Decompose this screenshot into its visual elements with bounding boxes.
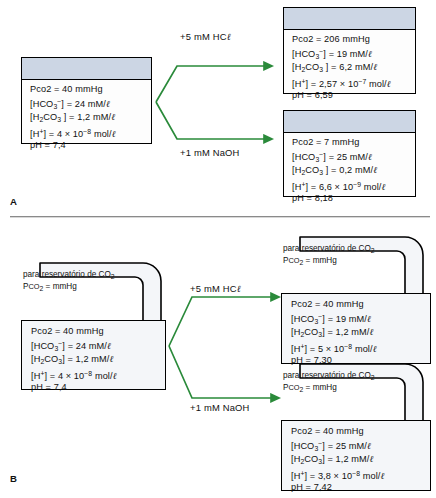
value-h2co3: [H2CO3] = 1,2 mM/ℓ — [291, 454, 424, 468]
panel-b-label: B — [10, 473, 17, 484]
panel-a-initial-box: Pco2 = 40 mmHg [HCO3−] = 24 mM/ℓ [H2CO3 … — [21, 57, 152, 144]
value-h2co3: [H2CO3 ] = 1,2 mM/ℓ — [30, 112, 145, 126]
reservoir-line-2: PCO2 = mmHg — [23, 282, 115, 294]
value-ph: pH = 6,59 — [292, 90, 409, 102]
value-h: [H+] = 4 × 10−8 mol/ℓ — [31, 368, 159, 383]
box-values: Pco2 = 206 mmHg [HCO3−] = 19 mM/ℓ [H2CO3… — [284, 30, 415, 107]
panel-a-arrow-fork — [155, 55, 285, 150]
value-hco3: [HCO3−] = 19 mM/ℓ — [292, 46, 409, 63]
panel-b-initial-box: para reservatório de CO2 PCO2 = mmHg Pco… — [21, 260, 166, 390]
value-h: [H+] = 4 × 10−8 mol/ℓ — [30, 126, 145, 141]
box-values: Pco2 = 40 mmHg [HCO3−] = 24 mM/ℓ [H2CO3 … — [22, 80, 151, 157]
value-hco3: [HCO3−] = 24 mM/ℓ — [31, 338, 159, 355]
value-pco2: Pco2 = 40 mmHg — [291, 299, 424, 311]
vessel-box: Pco2 = 40 mmHg [HCO3−] = 24 mM/ℓ [H2CO3]… — [21, 320, 166, 390]
value-ph: pH = 7,30 — [291, 355, 424, 367]
panel-a-base-arrow-label: +1 mM NaOH — [180, 147, 240, 158]
value-h: [H+] = 3,8 × 10−8 mol/ℓ — [291, 468, 424, 483]
value-h2co3: [H2CO3 ] = 0,2 mM/ℓ — [292, 165, 409, 179]
reservoir-line-1: para reservatório de CO2 — [23, 270, 115, 282]
value-pco2: Pco2 = 40 mmHg — [31, 326, 159, 338]
vessel-box: Pco2 = 40 mmHg [HCO3−] = 25 mM/ℓ [H2CO3]… — [281, 420, 431, 491]
box-values: Pco2 = 40 mmHg [HCO3−] = 24 mM/ℓ [H2CO3]… — [22, 321, 165, 399]
value-hco3: [HCO3−] = 19 mM/ℓ — [291, 311, 424, 328]
reservoir-line-1: para reservatório de CO2 — [283, 371, 375, 383]
value-pco2: Pco2 = 40 mmHg — [291, 426, 424, 438]
value-ph: pH = 8,18 — [292, 193, 409, 205]
value-h2co3: [H2CO3 ] = 6,2 mM/ℓ — [292, 62, 409, 76]
value-h: [H+] = 5 × 10−8 mol/ℓ — [291, 341, 424, 356]
panel-b-after-base-box: para reservatório de CO2 PCO2 = mmHg Pco… — [281, 361, 431, 491]
value-ph: pH = 7,42 — [291, 482, 424, 494]
value-ph: pH = 7,4 — [30, 140, 145, 152]
box-header-band — [22, 58, 151, 80]
panel-divider — [10, 216, 430, 218]
panel-a-closed-system: Pco2 = 40 mmHg [HCO3−] = 24 mM/ℓ [H2CO3 … — [0, 0, 436, 228]
vessel-box: Pco2 = 40 mmHg [HCO3−] = 19 mM/ℓ [H2CO3]… — [281, 293, 431, 364]
value-pco2: Pco2 = 7 mmHg — [292, 137, 409, 149]
value-h2co3: [H2CO3] = 1,2 mM/ℓ — [291, 327, 424, 341]
value-pco2: Pco2 = 40 mmHg — [30, 84, 145, 96]
reservoir-caption: para reservatório de CO2 PCO2 = mmHg — [283, 244, 375, 269]
value-h: [H+] = 2,57 × 10−7 mol/ℓ — [292, 76, 409, 91]
value-h: [H+] = 6,6 × 10−9 mol/ℓ — [292, 179, 409, 194]
value-hco3: [HCO3−] = 25 mM/ℓ — [292, 149, 409, 166]
box-values: Pco2 = 7 mmHg [HCO3−] = 25 mM/ℓ [H2CO3 ]… — [284, 133, 415, 210]
reservoir-line-1: para reservatório de CO2 — [283, 244, 375, 256]
value-pco2: Pco2 = 206 mmHg — [292, 34, 409, 46]
panel-b-base-arrow-label: +1 mM NaOH — [190, 402, 250, 413]
panel-a-acid-arrow-label: +5 mM HCℓ — [180, 31, 231, 42]
panel-a-after-acid-box: Pco2 = 206 mmHg [HCO3−] = 19 mM/ℓ [H2CO3… — [283, 7, 416, 94]
panel-a-label: A — [10, 196, 17, 207]
box-values: Pco2 = 40 mmHg [HCO3−] = 25 mM/ℓ [H2CO3]… — [282, 421, 430, 498]
reservoir-line-2: PCO2 = mmHg — [283, 256, 375, 268]
value-h2co3: [H2CO3] = 1,2 mM/ℓ — [31, 354, 159, 368]
box-values: Pco2 = 40 mmHg [HCO3−] = 19 mM/ℓ [H2CO3]… — [282, 294, 430, 372]
reservoir-caption: para reservatório de CO2 PCO2 = mmHg — [23, 270, 115, 295]
value-hco3: [HCO3−] = 25 mM/ℓ — [291, 438, 424, 455]
panel-a-after-base-box: Pco2 = 7 mmHg [HCO3−] = 25 mM/ℓ [H2CO3 ]… — [283, 110, 416, 197]
panel-b-arrow-fork — [168, 285, 293, 410]
panel-b-acid-arrow-label: +5 mM HCℓ — [190, 283, 241, 294]
reservoir-caption: para reservatório de CO2 PCO2 = mmHg — [283, 371, 375, 396]
value-ph: pH = 7,4 — [31, 382, 159, 394]
panel-b-after-acid-box: para reservatório de CO2 PCO2 = mmHg Pco… — [281, 234, 431, 364]
box-header-band — [284, 111, 415, 133]
reservoir-line-2: PCO2 = mmHg — [283, 383, 375, 395]
box-header-band — [284, 8, 415, 30]
panel-b-open-system: para reservatório de CO2 PCO2 = mmHg Pco… — [0, 230, 436, 498]
value-hco3: [HCO3−] = 24 mM/ℓ — [30, 96, 145, 113]
